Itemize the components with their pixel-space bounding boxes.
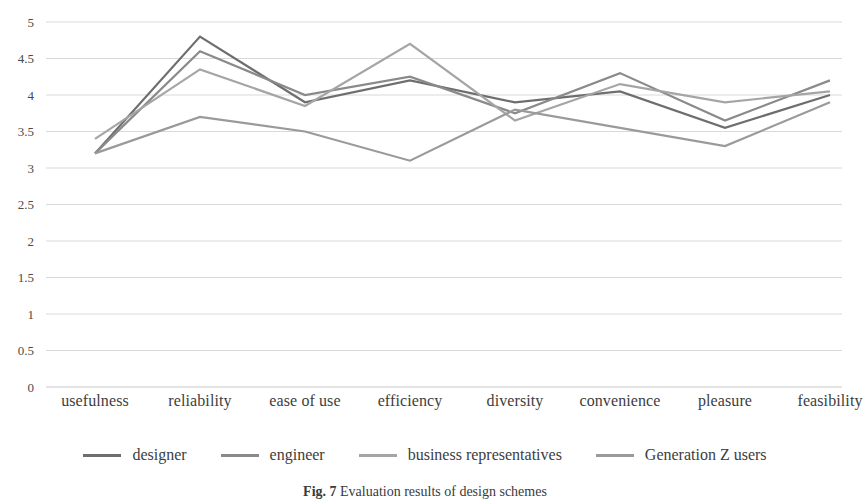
chart-plot-area: 54.543.532.521.510.50 (0, 0, 850, 392)
x-axis-tick-label: pleasure (698, 392, 752, 410)
legend-label: business representatives (408, 446, 562, 464)
legend-line-swatch (221, 454, 259, 457)
figure-caption-text: Evaluation results of design schemes (340, 484, 547, 499)
y-axis-tick-label: 2.5 (18, 197, 34, 212)
legend-item[interactable]: business representatives (359, 446, 562, 464)
y-axis-tick-label: 1 (28, 307, 35, 322)
x-axis-tick-label: feasibility (797, 392, 862, 410)
y-axis-tick-label: 5 (28, 15, 35, 30)
legend-line-swatch (83, 454, 121, 457)
legend-label: engineer (270, 446, 325, 464)
legend-item[interactable]: Generation Z users (596, 446, 767, 464)
y-axis-tick-label: 4.5 (18, 51, 34, 66)
chart-legend: designerengineerbusiness representatives… (0, 440, 850, 470)
gridlines-group (46, 22, 842, 387)
legend-label: Generation Z users (645, 446, 767, 464)
legend-item[interactable]: engineer (221, 446, 325, 464)
y-axis-tick-label: 3 (28, 161, 35, 176)
x-axis-tick-label: usefulness (61, 392, 129, 410)
legend-line-swatch (596, 454, 634, 457)
x-axis-tick-label: convenience (579, 392, 660, 410)
line-chart-svg: 54.543.532.521.510.50 (0, 0, 850, 392)
y-axis-tick-label: 0 (28, 380, 35, 393)
y-axis-tick-label: 4 (28, 88, 35, 103)
figure-number: Fig. 7 (303, 484, 336, 499)
y-axis-tick-label: 2 (28, 234, 35, 249)
legend-line-swatch (359, 454, 397, 457)
y-axis-tick-labels: 54.543.532.521.510.50 (18, 15, 35, 393)
x-axis-tick-labels: usefulnessreliabilityease of useefficien… (0, 392, 850, 420)
y-axis-tick-label: 0.5 (18, 343, 34, 358)
x-axis-tick-label: reliability (168, 392, 231, 410)
y-axis-tick-label: 3.5 (18, 124, 34, 139)
series-lines-group (95, 37, 830, 161)
figure-caption: Fig. 7 Evaluation results of design sche… (0, 484, 850, 504)
x-axis-tick-label: efficiency (378, 392, 443, 410)
legend-item[interactable]: designer (83, 446, 186, 464)
x-axis-tick-label: ease of use (269, 392, 340, 410)
legend-label: designer (132, 446, 186, 464)
x-axis-tick-label: diversity (487, 392, 544, 410)
y-axis-tick-label: 1.5 (18, 270, 34, 285)
